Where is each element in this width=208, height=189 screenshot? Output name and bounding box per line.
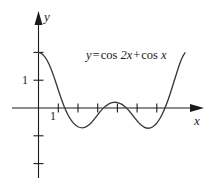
equation-term1-argument: 2x — [120, 48, 132, 62]
x-axis-tick-label-1: 1 — [50, 110, 56, 122]
y-axis-arrowhead — [35, 11, 43, 25]
equation-term1-function: cos — [101, 48, 118, 62]
plot-area — [0, 0, 208, 189]
x-axis-arrowhead — [190, 104, 204, 112]
equation-term2-function: cos — [141, 48, 158, 62]
y-axis-tick-label-1: 1 — [22, 74, 28, 86]
curve-equation-label: y=cos 2x+cos x — [86, 49, 167, 62]
graph-figure: y x 1 1 y=cos 2x+cos x — [0, 0, 208, 189]
equation-plus: + — [132, 48, 141, 62]
equation-equals: = — [92, 48, 101, 62]
y-axis-name: y — [44, 10, 50, 23]
curve-cos2x-plus-cosx — [39, 52, 186, 128]
equation-lhs: y — [86, 48, 92, 62]
equation-term2-argument: x — [161, 48, 167, 62]
x-axis-name: x — [194, 114, 200, 127]
